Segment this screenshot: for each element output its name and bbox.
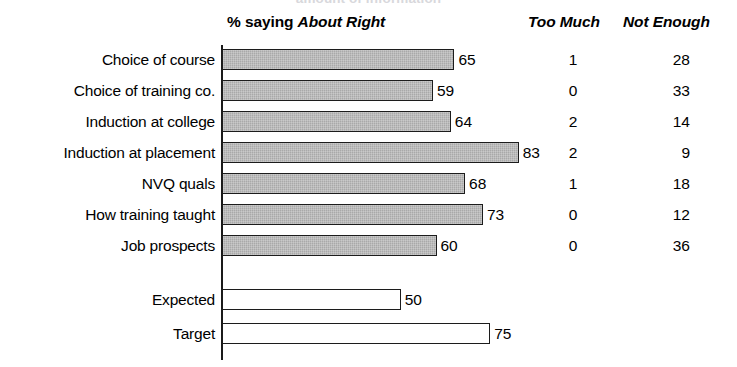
row-label: Expected	[0, 288, 215, 312]
not-enough-value: 12	[620, 203, 690, 227]
row-label: NVQ quals	[0, 172, 215, 196]
bar	[222, 142, 519, 163]
chart-row: Induction at college64214	[0, 110, 737, 134]
column-header-not-enough: Not Enough	[623, 13, 710, 31]
row-label: Target	[0, 322, 215, 346]
chart-row: Expected50	[0, 288, 737, 312]
too-much-value: 1	[540, 172, 606, 196]
bar-value-label: 59	[437, 79, 454, 103]
not-enough-value: 36	[620, 234, 690, 258]
bar	[222, 173, 465, 194]
bar	[222, 49, 454, 70]
row-label: Choice of training co.	[0, 79, 215, 103]
not-enough-value: 14	[620, 110, 690, 134]
chart-row: How training taught73012	[0, 203, 737, 227]
chart-row: Induction at placement8329	[0, 141, 737, 165]
column-header-too-much: Too Much	[528, 13, 600, 31]
bar	[222, 204, 483, 225]
header-emphasis: About Right	[298, 13, 386, 30]
bar	[222, 80, 433, 101]
not-enough-value: 18	[620, 172, 690, 196]
chart-row: NVQ quals68118	[0, 172, 737, 196]
bar-value-label: 64	[455, 110, 472, 134]
chart-container: amount of information % saying About Rig…	[0, 0, 737, 367]
chart-row: Job prospects60036	[0, 234, 737, 258]
chart-row: Target75	[0, 322, 737, 346]
bar-value-label: 65	[458, 48, 475, 72]
not-enough-value: 33	[620, 79, 690, 103]
row-label: Induction at placement	[0, 141, 215, 165]
too-much-value: 2	[540, 110, 606, 134]
chart-title: amount of information	[0, 0, 737, 6]
row-label: How training taught	[0, 203, 215, 227]
bar-value-label: 50	[405, 288, 422, 312]
column-header-about-right: % saying About Right	[227, 13, 385, 31]
too-much-value: 0	[540, 234, 606, 258]
not-enough-value: 9	[620, 141, 690, 165]
bar	[222, 235, 437, 256]
too-much-value: 1	[540, 48, 606, 72]
bar-value-label: 60	[441, 234, 458, 258]
bar-value-label: 73	[487, 203, 504, 227]
bar	[222, 289, 401, 310]
too-much-value: 0	[540, 79, 606, 103]
row-label: Induction at college	[0, 110, 215, 134]
too-much-value: 2	[540, 141, 606, 165]
row-label: Job prospects	[0, 234, 215, 258]
not-enough-value: 28	[620, 48, 690, 72]
bar	[222, 323, 490, 344]
too-much-value: 0	[540, 203, 606, 227]
chart-row: Choice of course65128	[0, 48, 737, 72]
chart-row: Choice of training co.59033	[0, 79, 737, 103]
bar	[222, 111, 451, 132]
bar-value-label: 75	[494, 322, 511, 346]
row-label: Choice of course	[0, 48, 215, 72]
bar-value-label: 83	[523, 141, 540, 165]
bar-value-label: 68	[469, 172, 486, 196]
header-prefix: % saying	[227, 13, 298, 30]
